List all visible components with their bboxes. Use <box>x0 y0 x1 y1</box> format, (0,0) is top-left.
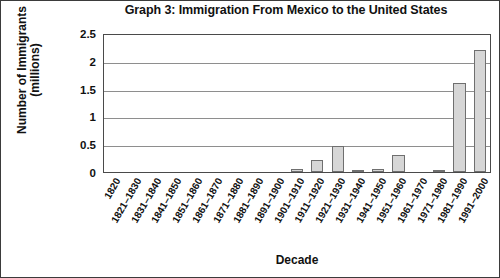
bar-slot <box>226 35 246 172</box>
bar[interactable] <box>392 155 404 172</box>
x-axis-title: Decade <box>103 253 491 267</box>
bar-slot <box>409 35 429 172</box>
bar-slot <box>287 35 307 172</box>
bar-slot <box>327 35 347 172</box>
chart-figure: Graph 3: Immigration From Mexico to the … <box>0 0 500 278</box>
bar-slot <box>246 35 266 172</box>
bar-slot <box>368 35 388 172</box>
bar[interactable] <box>291 169 303 172</box>
y-axis-tick-label: 1 <box>90 111 96 123</box>
bar-slot <box>206 35 226 172</box>
x-axis-tick-label: 1820 <box>102 176 123 201</box>
bar-series <box>104 35 490 172</box>
bar[interactable] <box>433 170 445 172</box>
bar-slot <box>429 35 449 172</box>
y-axis-tick-label: 1.5 <box>80 84 96 96</box>
bar-slot <box>185 35 205 172</box>
bar-slot <box>449 35 469 172</box>
bar[interactable] <box>372 169 384 172</box>
bar-slot <box>104 35 124 172</box>
y-axis-title: Number of Immigrants (millions) <box>7 0 51 150</box>
x-axis-tick-labels: 18201821–18301831–18401841–18501851–1860… <box>103 175 491 247</box>
chart-title: Graph 3: Immigration From Mexico to the … <box>73 3 499 17</box>
bar-slot <box>307 35 327 172</box>
bar[interactable] <box>474 50 486 172</box>
plot-area <box>103 34 491 173</box>
y-axis-tick-labels: 00.511.522.5 <box>53 27 99 180</box>
bar-slot <box>124 35 144 172</box>
y-axis-tick-label: 0.5 <box>80 139 96 151</box>
bar-slot <box>348 35 368 172</box>
bar-slot <box>145 35 165 172</box>
x-axis-tick-slot: 1991–2000 <box>471 175 491 247</box>
bar-slot <box>388 35 408 172</box>
bar[interactable] <box>453 83 465 172</box>
y-axis-tick-label: 0 <box>90 167 96 179</box>
y-axis-tick-label: 2 <box>90 56 96 68</box>
bar-slot <box>470 35 490 172</box>
bar[interactable] <box>311 160 323 172</box>
y-axis-title-line2: (millions) <box>29 43 42 96</box>
bar[interactable] <box>352 170 364 172</box>
bar[interactable] <box>332 146 344 172</box>
y-axis-tick-label: 2.5 <box>80 28 96 40</box>
bar-slot <box>165 35 185 172</box>
bar-slot <box>267 35 287 172</box>
